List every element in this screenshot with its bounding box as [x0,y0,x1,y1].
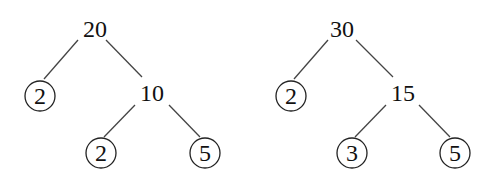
leaf-node: 5 [199,140,211,166]
leaf-node: 2 [34,83,46,109]
edge-inner-left [104,105,135,137]
inner-node: 15 [391,80,415,106]
factor-tree-1: 20 2 10 2 5 [25,16,220,168]
leaf-node: 5 [449,140,461,166]
leaf-node: 2 [285,83,297,109]
edge-inner-right [169,105,200,137]
factor-trees-diagram: 20 2 10 2 5 30 2 15 3 5 [0,0,480,182]
edge-root-right [356,40,393,77]
edge-inner-left [355,105,386,137]
factor-tree-2: 30 2 15 3 5 [276,16,470,168]
root-node: 30 [330,16,354,42]
inner-node: 10 [140,80,164,106]
edge-root-left [44,40,78,79]
edge-root-right [106,40,142,77]
leaf-node: 3 [346,140,358,166]
root-node: 20 [83,16,107,42]
edge-inner-right [419,105,450,137]
edge-root-left [294,40,328,79]
leaf-node: 2 [95,140,107,166]
